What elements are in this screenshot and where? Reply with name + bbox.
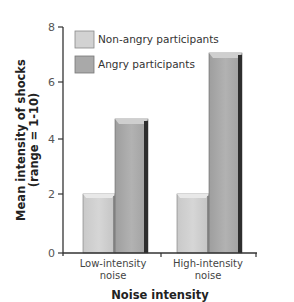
y-tick-4: 4 [48,133,55,146]
legend-item-angry: Angry participants [75,56,195,73]
bar-high-angry [209,53,242,253]
legend: Non-angry participants Angry participant… [75,31,219,73]
legend-label-angry: Angry participants [98,58,195,70]
legend-label-nonangry: Non-angry participants [98,33,219,45]
x-category-high-line2: noise [195,270,222,281]
bar-chart: 0 2 4 6 8 Mean intensity of shocks (rang… [0,0,294,302]
x-category-low-line1: Low-intensity [80,258,147,269]
legend-item-nonangry: Non-angry participants [75,31,219,48]
y-tick-0: 0 [48,247,55,260]
x-axis-title: Noise intensity [111,288,209,302]
bar-group-high [177,53,242,253]
y-axis: 0 2 4 6 8 [48,21,63,260]
y-axis-title: Mean intensity of shocks (range = 1-10) [14,59,41,221]
x-axis: Low-intensity noise High-intensity noise… [63,253,257,302]
y-tick-2: 2 [48,188,55,201]
bar-low-angry [115,119,148,253]
bar-low-nonangry [83,194,116,253]
x-category-high-line1: High-intensity [173,258,243,269]
y-axis-title-line2: (range = 1-10) [27,93,41,188]
y-axis-title-line1: Mean intensity of shocks [14,59,28,221]
bar-high-nonangry [177,194,210,253]
x-category-low-line2: noise [100,270,127,281]
y-tick-8: 8 [48,21,55,34]
bar-group-low [83,119,148,253]
y-tick-6: 6 [48,76,55,89]
